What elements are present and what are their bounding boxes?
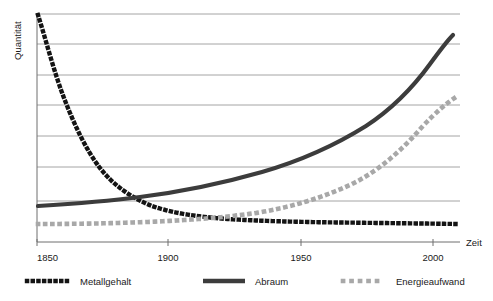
chart-figure: 1850 1900 1950 2000 Quantität Zeit Metal…: [0, 0, 493, 301]
legend-item-metallgehalt[interactable]: Metallgehalt: [27, 276, 132, 287]
series-line-abraum: [38, 35, 453, 206]
legend-item-energieaufwand[interactable]: Energieaufwand: [343, 276, 465, 287]
x-tick-label-1850: 1850: [37, 252, 58, 263]
x-tick-label-2000: 2000: [422, 252, 443, 263]
legend-item-abraum[interactable]: Abraum: [203, 276, 288, 287]
legend-label-energieaufwand: Energieaufwand: [396, 276, 465, 287]
series-line-metallgehalt: [38, 15, 458, 224]
x-tick-label-1900: 1900: [157, 252, 178, 263]
y-axis-title: Quantität: [12, 21, 23, 60]
gridlines: [37, 14, 460, 201]
series-line-energieaufwand: [38, 97, 456, 224]
x-tick-label-1950: 1950: [290, 252, 311, 263]
x-axis-title: Zeit: [466, 237, 482, 248]
legend-label-metallgehalt: Metallgehalt: [80, 276, 132, 287]
chart-legend: Metallgehalt Abraum Energieaufwand: [27, 276, 465, 287]
chart-svg: 1850 1900 1950 2000 Quantität Zeit Metal…: [0, 0, 493, 301]
legend-label-abraum: Abraum: [255, 276, 288, 287]
